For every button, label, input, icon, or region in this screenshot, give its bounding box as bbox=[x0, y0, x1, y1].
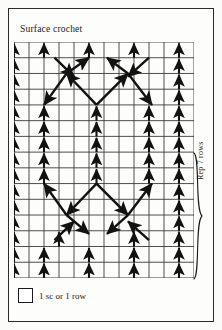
chart-grid-svg bbox=[14, 42, 194, 278]
legend: 1 sc or 1 row bbox=[18, 288, 86, 303]
diagonal-stitch-arrows bbox=[44, 58, 152, 240]
page-title: Surface crochet bbox=[20, 24, 82, 34]
crochet-chart bbox=[14, 42, 194, 278]
square-outline-icon bbox=[18, 288, 33, 303]
repeat-rows-label: Rep 7 rows bbox=[196, 110, 205, 180]
vertical-stitch-arrows bbox=[14, 44, 179, 278]
grid-lines bbox=[14, 42, 194, 278]
page-root: Surface crochet Rep 7 rows 1 sc or 1 row bbox=[0, 0, 222, 330]
legend-label: 1 sc or 1 row bbox=[39, 291, 86, 301]
